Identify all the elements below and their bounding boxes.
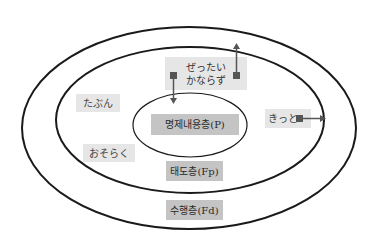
arrows-overlay	[0, 0, 380, 245]
kanarazu-marker	[233, 72, 240, 79]
kitto-marker	[296, 115, 303, 122]
kitto-arrowhead	[320, 115, 326, 122]
zettai-arrowhead	[170, 98, 177, 104]
zettai-marker	[170, 72, 177, 79]
kanarazu-arrowhead	[233, 43, 240, 49]
